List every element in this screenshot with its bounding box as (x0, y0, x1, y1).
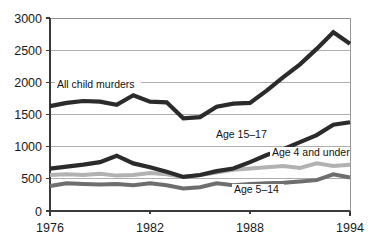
annotation-label-all-child-murders: All child murders (57, 78, 135, 90)
y-tick-label-3000: 3000 (14, 12, 42, 26)
y-tick-label-500: 500 (21, 172, 42, 186)
line-chart: 050010001500200025003000 197619821988199… (0, 0, 370, 240)
x-tick-label-1988: 1988 (236, 221, 264, 235)
annotation-label-age-4-and-under: Age 4 and under (272, 146, 350, 158)
y-tick-label-0: 0 (35, 205, 42, 219)
series-annotations-group: All child murdersAge 15–17Age 4 and unde… (55, 78, 350, 196)
chart-container: 050010001500200025003000 197619821988199… (0, 0, 370, 240)
annotation-label-age-15-17: Age 15–17 (216, 128, 267, 140)
y-tick-label-2000: 2000 (14, 76, 42, 90)
x-tick-label-1994: 1994 (336, 221, 364, 235)
y-tick-label-1000: 1000 (14, 140, 42, 154)
x-tick-label-1982: 1982 (136, 221, 164, 235)
x-tick-label-1976: 1976 (36, 221, 64, 235)
y-tick-label-2500: 2500 (14, 44, 42, 58)
y-axis-tick-labels: 050010001500200025003000 (14, 12, 50, 219)
series-line-all-child-murders (50, 32, 350, 118)
x-axis-tick-labels: 1976198219881994 (36, 211, 364, 235)
data-series-group (50, 32, 350, 188)
y-tick-label-1500: 1500 (14, 108, 42, 122)
annotation-label-age-5-14: Age 5–14 (234, 183, 279, 195)
